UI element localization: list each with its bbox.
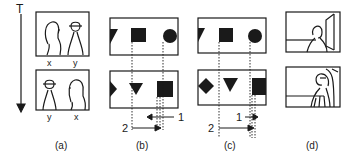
arrow-1-label: 1 (178, 111, 184, 123)
arrow-2-head (155, 125, 161, 131)
arrow-2-head (248, 125, 254, 131)
diamond-shape-icon (198, 78, 214, 94)
caption-a: (a) (55, 140, 67, 152)
caption-b: (b) (136, 140, 148, 152)
man-with-hat-figure-icon (68, 22, 83, 55)
triangle-shape-icon (110, 29, 118, 44)
man-with-hat-figure-icon (43, 80, 56, 110)
circle-shape-icon (248, 29, 262, 43)
frame-a-top-left-label: x (47, 58, 52, 68)
frame-a-bottom-left-label: y (47, 112, 52, 122)
diagram-canvas (0, 0, 355, 158)
projection-lines (219, 42, 255, 138)
time-axis-arrow (17, 14, 25, 112)
panel-d (286, 12, 340, 107)
panel-b (110, 18, 178, 131)
triangle-down-shape-icon (129, 83, 143, 95)
square-shape-icon (131, 28, 146, 42)
triangle-shape-icon (198, 28, 205, 42)
woman-figure-icon (45, 22, 60, 55)
square-partial-shape-icon (252, 78, 266, 95)
arrow-1-label: 1 (236, 111, 242, 123)
doorway-icon (326, 14, 334, 50)
frame-a-top (36, 12, 89, 56)
arrow-1-head (147, 114, 152, 120)
doorway-icon (326, 69, 338, 107)
person-closeup-icon (311, 74, 330, 107)
frame-d-bottom (286, 67, 340, 107)
square-shape-icon (157, 81, 173, 97)
caption-c: (c) (224, 140, 236, 152)
panel-c (198, 18, 266, 138)
caption-d: (d) (306, 140, 318, 152)
arrow-2-label: 2 (208, 122, 214, 134)
arrow-2-label: 2 (122, 122, 128, 134)
circle-shape-icon (163, 29, 177, 43)
person-back-view-icon (307, 26, 327, 52)
frame-a-top-right-label: y (73, 58, 78, 68)
panel-a (36, 12, 89, 110)
time-axis-label: T (16, 3, 23, 15)
frame-a-bottom-right-label: x (74, 112, 79, 122)
triangle-partial-shape-icon (110, 81, 117, 97)
woman-figure-icon (69, 80, 85, 110)
triangle-down-shape-icon (223, 78, 238, 92)
arrow-1-head (253, 114, 258, 120)
square-shape-icon (219, 28, 233, 42)
